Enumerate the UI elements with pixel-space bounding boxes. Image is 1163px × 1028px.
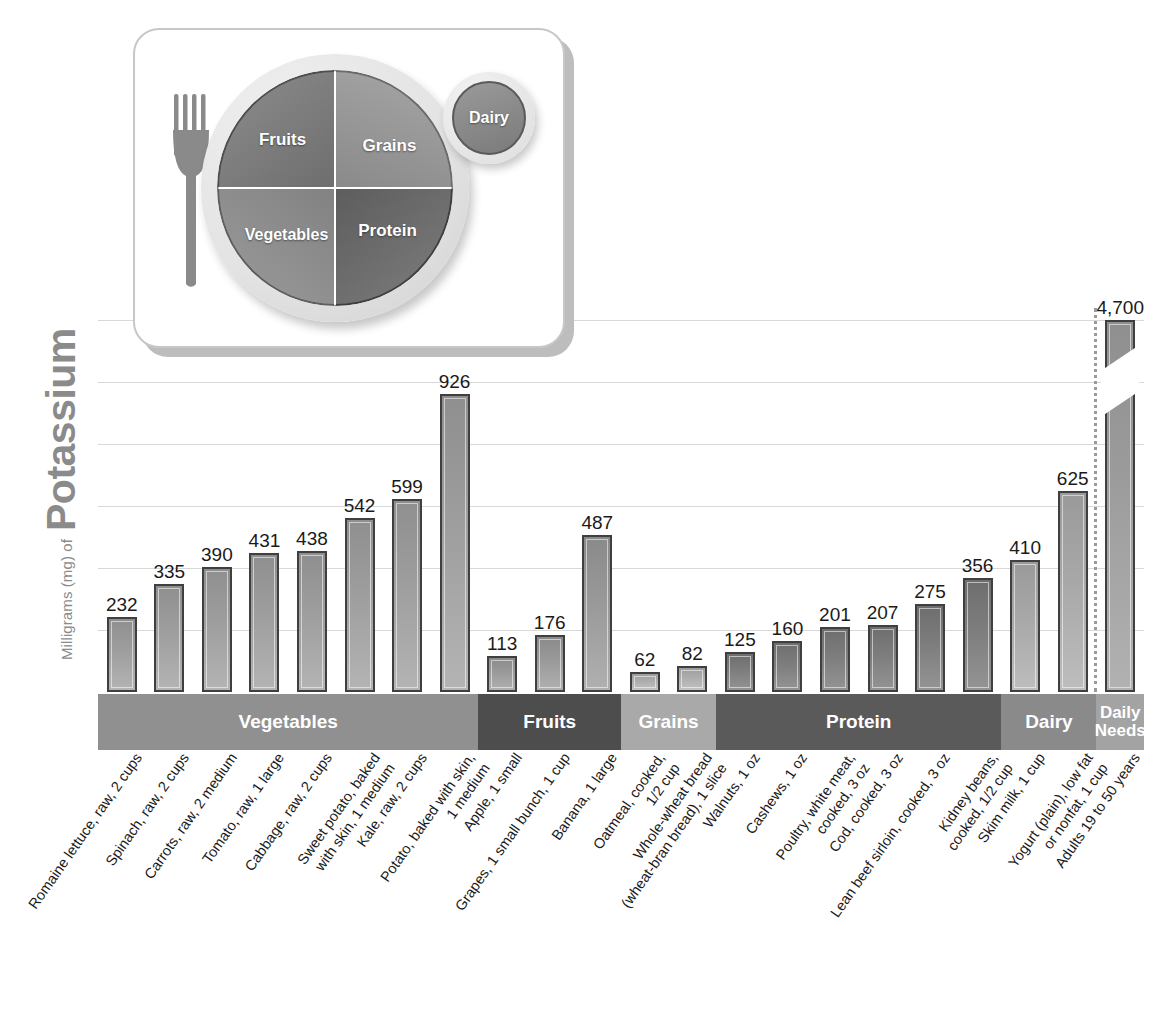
bar-rect xyxy=(345,518,375,692)
bar-prot[interactable]: 125 xyxy=(725,652,755,692)
x-axis-labels: Romaine lettuce, raw, 2 cupsSpinach, raw… xyxy=(0,750,1163,1020)
bar-rect xyxy=(440,394,470,692)
bar-inner-highlight xyxy=(539,639,561,688)
bar-rect xyxy=(677,666,707,692)
bar-value-label: 160 xyxy=(772,619,804,638)
bar-value-label: 335 xyxy=(153,562,185,581)
bar-veg[interactable]: 431 xyxy=(249,553,279,692)
plate-section-fruits-label: Fruits xyxy=(259,130,306,150)
bar-inner-highlight xyxy=(729,656,751,688)
bar-prot[interactable]: 356 xyxy=(963,578,993,692)
bar-rect xyxy=(868,625,898,692)
bar-rect xyxy=(963,578,993,692)
band-label: Fruits xyxy=(523,712,576,732)
bar-value-label: 390 xyxy=(201,545,233,564)
bar-value-label: 275 xyxy=(914,582,946,601)
bar-inner-highlight xyxy=(634,676,656,688)
bar-veg[interactable]: 926 xyxy=(440,394,470,692)
bar-inner-highlight xyxy=(158,588,180,688)
bar-grain[interactable]: 62 xyxy=(630,672,660,692)
plate-shape: Fruits Grains Vegetables Protein xyxy=(201,54,469,322)
bar-inner-highlight xyxy=(586,539,608,688)
bar-value-label: 926 xyxy=(439,372,471,391)
bar-value-label: 232 xyxy=(106,595,138,614)
bar-value-label: 542 xyxy=(344,496,376,515)
dairy-cup-label: Dairy xyxy=(469,109,509,127)
bar-rect xyxy=(1058,491,1088,692)
bar-inner-highlight xyxy=(491,660,513,688)
band-veg: Vegetables xyxy=(98,694,478,750)
bar-rect xyxy=(535,635,565,692)
band-fruit: Fruits xyxy=(478,694,621,750)
band-prot: Protein xyxy=(716,694,1001,750)
band-label: Vegetables xyxy=(239,712,338,732)
plate-sections: Fruits Grains Vegetables Protein xyxy=(217,70,453,306)
bar-veg[interactable]: 232 xyxy=(107,617,137,692)
dairy-cup-shape: Dairy xyxy=(443,72,535,164)
bar-rect xyxy=(297,551,327,692)
band-label: Grains xyxy=(638,712,698,732)
bar-inner-highlight xyxy=(111,621,133,688)
bar-value-label: 125 xyxy=(724,630,756,649)
bar-inner-highlight xyxy=(206,571,228,688)
bar-inner-highlight xyxy=(444,398,466,688)
y-axis-units-label: Milligrams (mg) of xyxy=(58,539,75,660)
bar-inner-highlight xyxy=(1062,495,1084,688)
bar-value-label: 113 xyxy=(487,634,517,653)
bar-value-label: 176 xyxy=(534,613,566,632)
bar-value-label: 82 xyxy=(682,644,703,663)
plate-section-grains-label: Grains xyxy=(363,136,417,156)
bar-rect xyxy=(249,553,279,692)
food-group-band-axis: VegetablesFruitsGrainsProteinDairyDailyN… xyxy=(98,694,1144,750)
band-label: Protein xyxy=(826,712,891,732)
bar-fruit[interactable]: 113 xyxy=(487,656,517,692)
bar-inner-highlight xyxy=(1014,564,1036,688)
bar-rect xyxy=(107,617,137,692)
bar-prot[interactable]: 275 xyxy=(915,604,945,692)
bar-prot[interactable]: 201 xyxy=(820,627,850,692)
bar-veg[interactable]: 335 xyxy=(154,584,184,692)
bar-grain[interactable]: 82 xyxy=(677,666,707,692)
bar-value-label: 410 xyxy=(1009,538,1041,557)
dairy-cup-label-wrap: Dairy xyxy=(452,81,526,155)
bar-rect xyxy=(1105,320,1135,692)
bar-value-label: 487 xyxy=(581,513,613,532)
band-label: DailyNeeds xyxy=(1095,704,1146,740)
bar-rect xyxy=(392,499,422,692)
bar-value-label: 207 xyxy=(867,603,899,622)
plate-section-protein-label: Protein xyxy=(358,221,417,241)
bar-rect xyxy=(772,641,802,692)
bar-dairy[interactable]: 410 xyxy=(1010,560,1040,692)
bar-veg[interactable]: 438 xyxy=(297,551,327,692)
bar-rect xyxy=(582,535,612,692)
bar-inner-highlight xyxy=(919,608,941,688)
band-daily: DailyNeeds xyxy=(1096,694,1144,750)
bar-value-label: 356 xyxy=(962,556,994,575)
bar-fruit[interactable]: 176 xyxy=(535,635,565,692)
plate-section-vegetables-label: Vegetables xyxy=(245,226,329,244)
bar-veg[interactable]: 599 xyxy=(392,499,422,692)
daily-needs-separator xyxy=(1094,308,1097,692)
bar-value-label: 431 xyxy=(249,531,281,550)
bar-rect xyxy=(1010,560,1040,692)
bar-prot[interactable]: 160 xyxy=(772,641,802,692)
bar-inner-highlight xyxy=(776,645,798,688)
bar-value-label: 599 xyxy=(391,477,423,496)
bar-rect xyxy=(630,672,660,692)
bar-fruit[interactable]: 487 xyxy=(582,535,612,692)
bar-inner-highlight xyxy=(396,503,418,688)
bar-veg[interactable]: 390 xyxy=(202,567,232,692)
bar-rect xyxy=(820,627,850,692)
bar-value-label: 438 xyxy=(296,529,328,548)
bar-value-label: 625 xyxy=(1057,469,1089,488)
bar-daily[interactable]: 4,700 xyxy=(1105,320,1135,692)
bar-veg[interactable]: 542 xyxy=(345,518,375,692)
bar-inner-highlight xyxy=(967,582,989,688)
bar-inner-highlight xyxy=(349,522,371,688)
bar-prot[interactable]: 207 xyxy=(868,625,898,692)
band-dairy: Dairy xyxy=(1001,694,1096,750)
bar-inner-highlight xyxy=(872,629,894,688)
band-grain: Grains xyxy=(621,694,716,750)
bar-dairy[interactable]: 625 xyxy=(1058,491,1088,692)
y-axis-nutrient-label: Potassium xyxy=(38,328,85,531)
